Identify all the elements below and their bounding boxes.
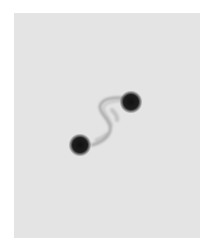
image-panel (14, 13, 200, 238)
blob-upper-right (120, 91, 143, 114)
micrograph-figure (14, 13, 200, 238)
blob-lower-left (69, 134, 92, 157)
